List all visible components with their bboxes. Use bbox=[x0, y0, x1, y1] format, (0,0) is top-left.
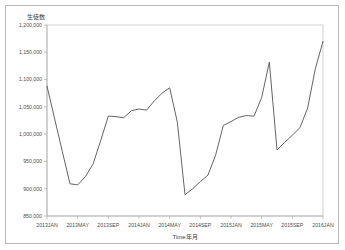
y-axis-ticks: 1,200,0001,150,0001,100,0001,050,0001,00… bbox=[19, 22, 47, 219]
y-axis-tick-label: 950,000 bbox=[23, 158, 42, 164]
x-axis-tick-label: 2014SEP bbox=[189, 222, 211, 228]
y-axis-tick-label: 1,050,000 bbox=[19, 104, 42, 110]
y-axis-tick-label: 850,000 bbox=[23, 213, 42, 219]
series-title-label: 生徒数 bbox=[27, 13, 45, 21]
y-axis-tick-label: 1,100,000 bbox=[19, 76, 42, 82]
x-axis-tick-label: 2013SEP bbox=[97, 222, 119, 228]
chart-figure: 1,200,0001,150,0001,100,0001,050,0001,00… bbox=[0, 0, 345, 250]
plot-area-border bbox=[47, 25, 323, 216]
x-axis-tick-label: 2015JAN bbox=[220, 222, 242, 228]
x-axis-tick-label: 2013MAY bbox=[66, 222, 89, 228]
x-axis-tick-label: 2014JAN bbox=[128, 222, 150, 228]
y-axis-tick-label: 900,000 bbox=[23, 186, 42, 192]
data-series-line bbox=[47, 41, 323, 194]
x-axis-tick-label: 2013JAN bbox=[36, 222, 58, 228]
y-axis-tick-label: 1,200,000 bbox=[19, 22, 42, 28]
y-axis-tick-label: 1,000,000 bbox=[19, 131, 42, 137]
x-axis-title-label: Time年月 bbox=[172, 233, 197, 241]
x-axis-tick-label: 2015MAY bbox=[250, 222, 273, 228]
x-axis-tick-label: 2014MAY bbox=[158, 222, 181, 228]
x-axis-tick-label: 2015SEP bbox=[281, 222, 303, 228]
x-axis-tick-label: 2016JAN bbox=[312, 222, 334, 228]
line-chart-canvas: 1,200,0001,150,0001,100,0001,050,0001,00… bbox=[0, 0, 345, 250]
y-axis-tick-label: 1,150,000 bbox=[19, 49, 42, 55]
x-axis-ticks: 2013JAN2013MAY2013SEP2014JAN2014MAY2014S… bbox=[36, 216, 334, 228]
